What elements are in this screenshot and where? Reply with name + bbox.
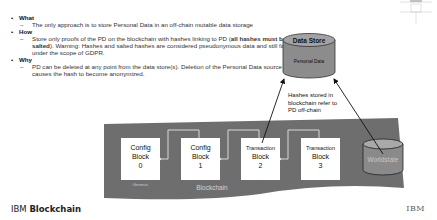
block-label-line: Transaction — [306, 145, 335, 151]
block-2: TransactionBlock2 — [241, 138, 280, 180]
block-label-line: Block — [312, 153, 330, 160]
block-label-line: 0 — [139, 162, 143, 169]
block-0: ConfigBlock0Genesis — [121, 138, 160, 187]
crosshair-decoration-icon — [400, 1, 432, 24]
block-label-line: Transaction — [246, 145, 275, 151]
block-label-line: Config — [190, 144, 210, 152]
block-caption: Genesis — [133, 182, 148, 187]
block-label-line: 1 — [199, 162, 203, 169]
block-label-line: 3 — [319, 162, 323, 169]
data-store-title: Data Store — [293, 37, 326, 44]
svg-text:PD off-chain: PD off-chain — [288, 107, 321, 113]
svg-text:blockchain refer to: blockchain refer to — [288, 100, 338, 106]
hash-annotation: Hashes stored in blockchain refer to PD … — [288, 92, 338, 113]
footer-brand: IBM Blockchain — [11, 204, 81, 214]
block-label-line: Block — [252, 153, 270, 160]
blockchain-label: Blockchain — [196, 184, 228, 191]
data-store-subtitle: Personal Data — [294, 59, 325, 64]
worldstate-label: Worldstate — [368, 156, 399, 163]
block-label-line: Config — [130, 144, 150, 152]
data-store-cylinder: Data Store Personal Data — [283, 34, 335, 79]
worldstate-cylinder: Worldstate — [363, 139, 403, 175]
block-label-line: Block — [192, 153, 210, 160]
blockchain-diagram: ConfigBlock0GenesisConfigBlock1Transacti… — [0, 0, 437, 220]
block-label-line: 2 — [259, 162, 263, 169]
svg-text:Hashes stored in: Hashes stored in — [288, 92, 333, 98]
ibm-logo: IBM — [406, 204, 425, 213]
block-label-line: Block — [132, 153, 150, 160]
block-3: TransactionBlock3 — [301, 138, 340, 180]
block-1: ConfigBlock1 — [181, 138, 220, 180]
